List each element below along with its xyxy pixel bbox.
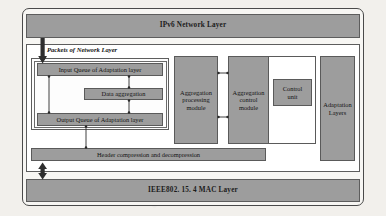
aggregation-control-module-block: Aggregation control module (228, 56, 269, 144)
adaptation-layers-line2: Layers (329, 109, 346, 116)
mac-layer-band: IEEE802. 15. 4 MAC Layer (26, 179, 360, 202)
output-queue-label: Output Queue of Adaptation layer (57, 116, 144, 123)
diagram-canvas: IPv6 Network Layer Packets of Network La… (0, 0, 386, 216)
aggregation-control-line3: module (239, 104, 258, 111)
aggregation-control-line2: control (239, 96, 257, 103)
aggregation-processing-module-block: Aggregation processing module (174, 56, 218, 144)
control-unit-line2: unit (288, 93, 298, 100)
input-queue-label: Input Queue of Adaptation layer (59, 66, 142, 73)
header-compression-block: Header compression and decompression (31, 148, 266, 161)
aggregation-processing-line1: Aggregation (180, 89, 212, 96)
data-aggregation-block: Data aggregation (84, 88, 163, 100)
adaptation-layers-block: Adaptation Layers (320, 56, 355, 161)
control-unit-block: Control unit (273, 79, 312, 106)
output-queue-block: Output Queue of Adaptation layer (37, 113, 163, 126)
mac-layer-label: IEEE802. 15. 4 MAC Layer (148, 187, 238, 195)
aggregation-control-line1: Aggregation (233, 89, 265, 96)
ipv6-network-layer-label: IPv6 Network Layer (160, 22, 227, 30)
header-compression-label: Header compression and decompression (97, 151, 200, 158)
adaptation-layers-line1: Adaptation (323, 101, 351, 108)
data-aggregation-label: Data aggregation (102, 90, 146, 97)
ipv6-network-layer-band: IPv6 Network Layer (26, 14, 360, 38)
aggregation-processing-line2: processing (182, 96, 209, 103)
control-unit-line1: Control (283, 85, 303, 92)
packets-of-network-layer-label: Packets of Network Layer (47, 46, 117, 53)
aggregation-processing-line3: module (186, 104, 205, 111)
input-queue-block: Input Queue of Adaptation layer (37, 63, 163, 76)
